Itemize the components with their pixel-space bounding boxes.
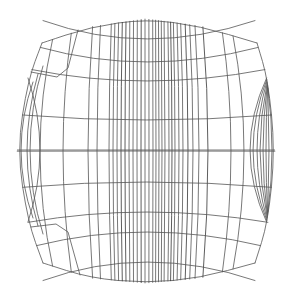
mesh-horizontal-line bbox=[23, 115, 272, 120]
mesh-horizontal-lines bbox=[17, 21, 275, 281]
mesh-vertical-line bbox=[190, 25, 193, 279]
outline-edge-top bbox=[42, 21, 257, 43]
mesh-horizontal-line bbox=[28, 212, 268, 222]
wireframe-mesh-figure bbox=[0, 0, 292, 300]
mesh-vertical-line bbox=[195, 25, 199, 278]
mesh-horizontal-line bbox=[23, 182, 272, 187]
mesh-vertical-line bbox=[233, 36, 244, 269]
mesh-vertical-line bbox=[97, 26, 101, 279]
mesh-vertical-line bbox=[88, 27, 93, 279]
outline-edge-right bbox=[255, 43, 273, 263]
mesh-vertical-line bbox=[222, 33, 231, 272]
mesh-vertical-line bbox=[113, 23, 115, 280]
mesh-vertical-line bbox=[185, 24, 188, 279]
mesh-vertical-line bbox=[181, 24, 183, 280]
outline-edge-left bbox=[20, 43, 43, 263]
mesh-vertical-line bbox=[203, 27, 208, 277]
mesh-vertical-line bbox=[109, 24, 111, 280]
mesh-vertical-line bbox=[40, 40, 53, 267]
mesh-vertical-line bbox=[117, 23, 119, 281]
